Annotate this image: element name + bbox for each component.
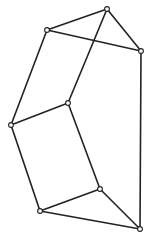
- edge-E-G: [11, 125, 40, 211]
- vertex-B: [45, 28, 50, 33]
- vertex-A: [105, 7, 110, 12]
- edge-B-E: [11, 30, 47, 125]
- edge-D-F: [68, 103, 100, 189]
- edge-D-E: [11, 103, 68, 125]
- vertex-E: [9, 123, 14, 128]
- vertex-H: [138, 227, 143, 232]
- polyhedron-graph-diagram: [0, 0, 152, 238]
- edge-F-G: [40, 189, 100, 211]
- vertex-G: [38, 209, 43, 214]
- edge-A-D: [68, 9, 107, 103]
- vertex-C: [139, 49, 144, 54]
- edge-A-B: [47, 9, 107, 30]
- edge-C-H: [140, 51, 141, 229]
- edges-group: [11, 9, 141, 229]
- vertex-F: [98, 187, 103, 192]
- vertex-D: [66, 101, 71, 106]
